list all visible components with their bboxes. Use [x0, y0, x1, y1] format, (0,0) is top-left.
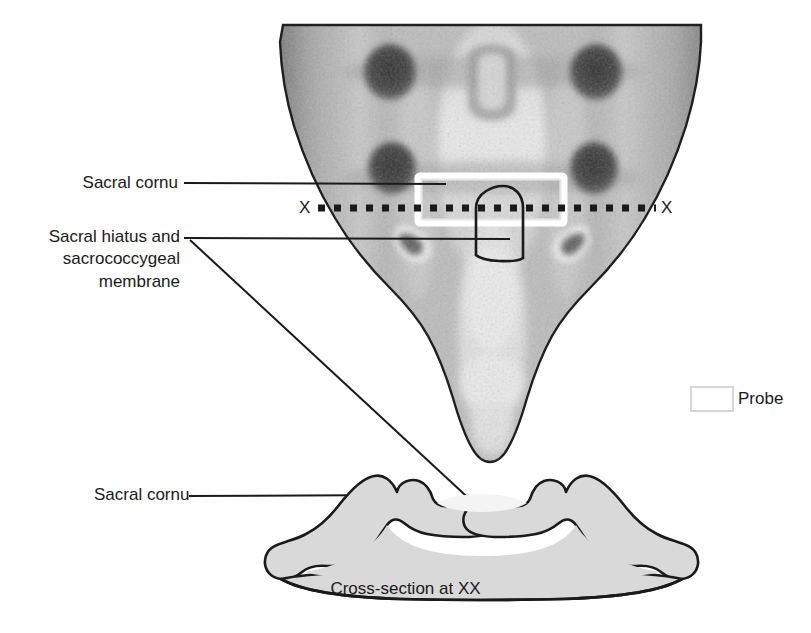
label-sacral-cornu-top: Sacral cornu: [66, 172, 178, 194]
section-marker-x-left: X: [299, 197, 310, 219]
leader-sacral-cornu-top: [184, 183, 446, 184]
probe-legend-label: Probe: [738, 388, 783, 410]
sacral-anatomy-figure: Sacral cornu Sacral hiatus and sacrococc…: [0, 0, 811, 633]
leader-sacral-hiatus-top: [184, 238, 510, 239]
figure-graphics: [0, 0, 811, 633]
probe-legend-swatch: [690, 386, 734, 412]
label-sacral-hiatus-and-sacrococcygeal-membrane: Sacral hiatus and sacrococcygeal membran…: [18, 226, 180, 293]
cross-section-caption: Cross-section at XX: [0, 578, 811, 600]
section-marker-x-right: X: [661, 197, 672, 219]
label-sacral-cornu-bottom: Sacral cornu: [94, 484, 182, 506]
posterior-sacrum-photo: [270, 18, 720, 478]
